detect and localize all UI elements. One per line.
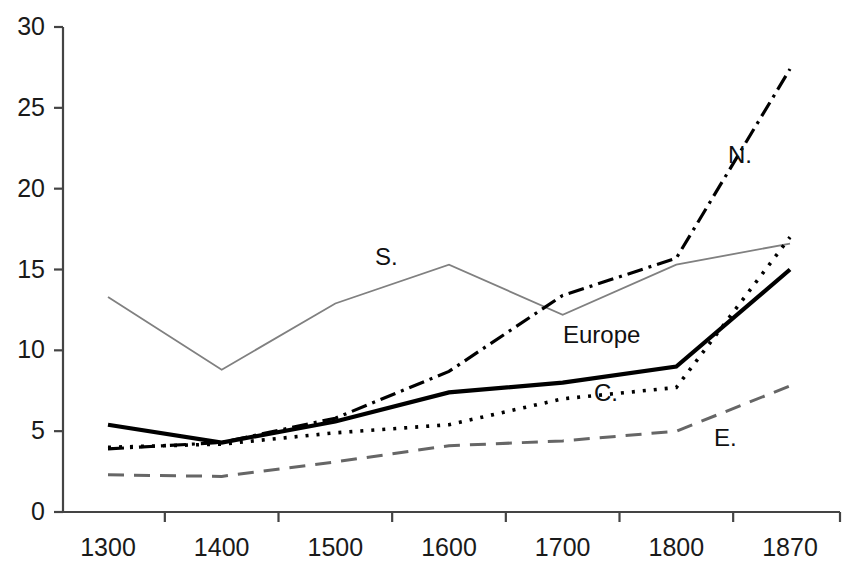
line-chart: 051015202530 130014001500160017001800187…: [0, 0, 862, 564]
x-tick-label: 1870: [740, 535, 840, 560]
series-label-c: C.: [594, 381, 618, 405]
y-tick-label: 0: [0, 499, 45, 524]
x-tick-label: 1400: [172, 535, 272, 560]
y-tick-label: 10: [0, 337, 45, 362]
series-label-n: N.: [728, 143, 752, 167]
x-tick-label: 1800: [626, 535, 726, 560]
x-tick-label: 1300: [58, 535, 158, 560]
series-line-c: [108, 237, 790, 447]
x-tick-label: 1700: [513, 535, 613, 560]
x-tick-label: 1600: [399, 535, 499, 560]
series-label-europe: Europe: [563, 323, 640, 347]
y-tick-label: 5: [0, 418, 45, 443]
x-tick-label: 1500: [285, 535, 385, 560]
y-tick-label: 15: [0, 257, 45, 282]
series-line-europe: [108, 270, 790, 443]
y-tick-label: 20: [0, 176, 45, 201]
series-label-s: S.: [375, 245, 398, 269]
series-line-s: [108, 244, 790, 370]
plot-area: [0, 0, 862, 564]
y-tick-label: 25: [0, 95, 45, 120]
series-label-e: E.: [714, 426, 737, 450]
series-line-e: [108, 386, 790, 477]
y-tick-label: 30: [0, 14, 45, 39]
